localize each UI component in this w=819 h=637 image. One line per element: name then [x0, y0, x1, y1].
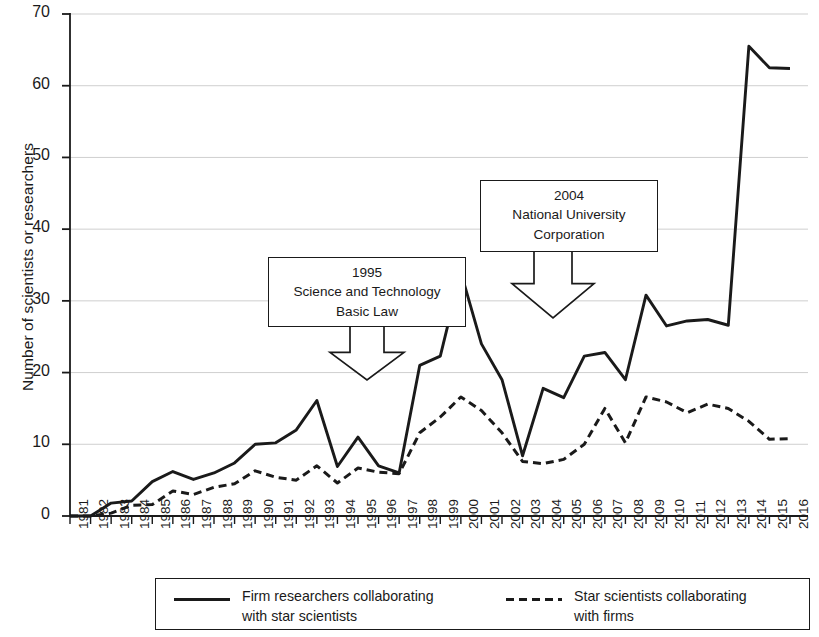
y-axis-tick-label: 70	[16, 3, 50, 21]
x-axis-tick-label: 2009	[652, 499, 667, 529]
x-axis-tick-label: 2011	[693, 500, 708, 529]
annotation-1995-box: 1995Science and TechnologyBasic Law	[268, 257, 466, 327]
x-axis-tick-label: 1999	[446, 499, 461, 529]
x-axis-tick-label: 1988	[220, 499, 235, 529]
legend-entry-firm-researchers: Firm researchers collaborating with star…	[174, 587, 434, 626]
x-axis-tick-label: 2001	[487, 499, 502, 529]
x-axis-tick-label: 2005	[569, 499, 584, 529]
annotation-1995-arrow-icon	[330, 327, 404, 380]
y-axis-tick-label: 30	[16, 290, 50, 308]
chart-figure: Number of scientists or researchers 0102…	[0, 0, 819, 637]
x-axis-tick-label: 2015	[775, 499, 790, 529]
annotation-text-line: 2004	[489, 186, 649, 205]
x-axis-tick-label: 2012	[713, 499, 728, 529]
x-axis-tick-label: 1993	[322, 499, 337, 529]
x-axis-tick-label: 2006	[590, 499, 605, 529]
legend-label: Star scientists collaborating with firms	[574, 587, 747, 626]
x-axis-tick-label: 1994	[343, 499, 358, 529]
x-axis-tick-label: 1995	[364, 499, 379, 529]
x-axis-tick-label: 2000	[466, 499, 481, 529]
annotation-text-line: 1995	[277, 263, 457, 282]
y-axis-tick-label: 50	[16, 146, 50, 164]
legend-swatch-dashed-icon	[506, 592, 562, 608]
x-axis-tick-label: 1991	[281, 499, 296, 529]
y-axis-tick-marks	[62, 14, 70, 516]
x-axis-tick-label: 2016	[796, 499, 811, 529]
x-axis-tick-label: 1986	[178, 499, 193, 529]
x-axis-tick-label: 2008	[631, 499, 646, 529]
annotation-text-line: Corporation	[489, 225, 649, 244]
legend-label: Firm researchers collaborating with star…	[242, 587, 434, 626]
x-axis-tick-label: 2002	[508, 499, 523, 529]
annotation-2004-box: 2004National UniversityCorporation	[480, 180, 658, 252]
x-axis-tick-label: 1998	[425, 499, 440, 529]
x-axis-tick-label: 1987	[199, 499, 214, 529]
x-axis-tick-label: 1982	[96, 499, 111, 529]
legend-swatch-solid-icon	[174, 592, 230, 608]
gridlines	[70, 14, 808, 444]
annotation-text-line: Basic Law	[277, 302, 457, 321]
x-axis-tick-label: 2010	[672, 499, 687, 529]
legend: Firm researchers collaborating with star…	[155, 578, 810, 630]
x-axis-tick-label: 1992	[302, 499, 317, 529]
annotation-text-line: National University	[489, 205, 649, 224]
x-axis-tick-label: 1990	[261, 499, 276, 529]
legend-entry-star-scientists: Star scientists collaborating with firms	[506, 587, 747, 626]
y-axis-tick-label: 40	[16, 218, 50, 236]
x-axis-tick-label: 1985	[158, 499, 173, 529]
x-axis-tick-label: 1997	[405, 499, 420, 529]
x-axis-tick-label: 1996	[384, 499, 399, 529]
x-axis-tick-label: 1984	[137, 499, 152, 529]
y-axis-tick-label: 0	[16, 505, 50, 523]
x-axis-tick-label: 2003	[528, 499, 543, 529]
y-axis-tick-label: 60	[16, 75, 50, 93]
x-axis-tick-label: 2007	[610, 499, 625, 529]
annotation-text-line: Science and Technology	[277, 282, 457, 301]
y-axis-tick-label: 20	[16, 362, 50, 380]
y-axis-tick-label: 10	[16, 433, 50, 451]
annotation-2004-arrow-icon	[512, 252, 594, 318]
x-axis-tick-label: 2014	[754, 499, 769, 529]
x-axis-tick-label: 1989	[240, 499, 255, 529]
x-axis-tick-label: 1983	[117, 499, 132, 529]
y-axis-title: Number of scientists or researchers	[19, 67, 37, 467]
x-axis-tick-label: 1981	[76, 499, 91, 529]
x-axis-tick-label: 2004	[549, 499, 564, 529]
x-axis-tick-label: 2013	[734, 499, 749, 529]
